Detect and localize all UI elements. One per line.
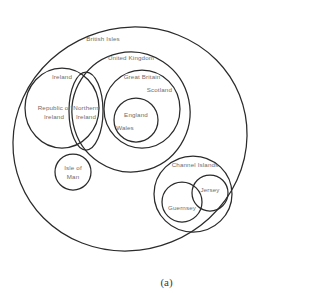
label-great-britain: Great Britain: [124, 73, 161, 80]
label-republic-of-ireland-line2: Ireland: [44, 113, 64, 120]
label-united-kingdom: United Kingdom: [108, 54, 154, 61]
label-northern-ireland-line1: Northern: [73, 104, 99, 111]
label-northern-ireland-line2: Ireland: [76, 113, 96, 120]
region-england-wales-outline[interactable]: [114, 98, 158, 142]
label-ireland: Ireland: [52, 73, 72, 80]
label-wales: Wales: [116, 124, 134, 131]
region-british-isles-outline[interactable]: [0, 0, 281, 270]
label-jersey: Jersey: [200, 186, 220, 193]
region-jersey-outline[interactable]: [192, 175, 228, 211]
label-channel-islands: Channel Islands: [172, 161, 219, 168]
label-guernsey: Guernsey: [168, 204, 197, 211]
euler-diagram-figure: British Isles United Kingdom Ireland Gre…: [0, 0, 333, 306]
region-isle-of-man-outline[interactable]: [55, 154, 91, 190]
region-guernsey-outline[interactable]: [162, 182, 202, 222]
label-british-isles: British Isles: [86, 35, 120, 42]
british-isles-euler-diagram: British Isles United Kingdom Ireland Gre…: [0, 0, 333, 270]
label-isle-of-man-line2: Man: [67, 173, 80, 180]
label-isle-of-man-line1: Isle of: [64, 164, 82, 171]
label-republic-of-ireland-line1: Republic of: [38, 104, 71, 111]
region-great-britain-outline[interactable]: [104, 70, 180, 148]
figure-caption: (a): [0, 276, 333, 288]
label-scotland: Scotland: [147, 86, 173, 93]
label-england: England: [124, 111, 148, 118]
